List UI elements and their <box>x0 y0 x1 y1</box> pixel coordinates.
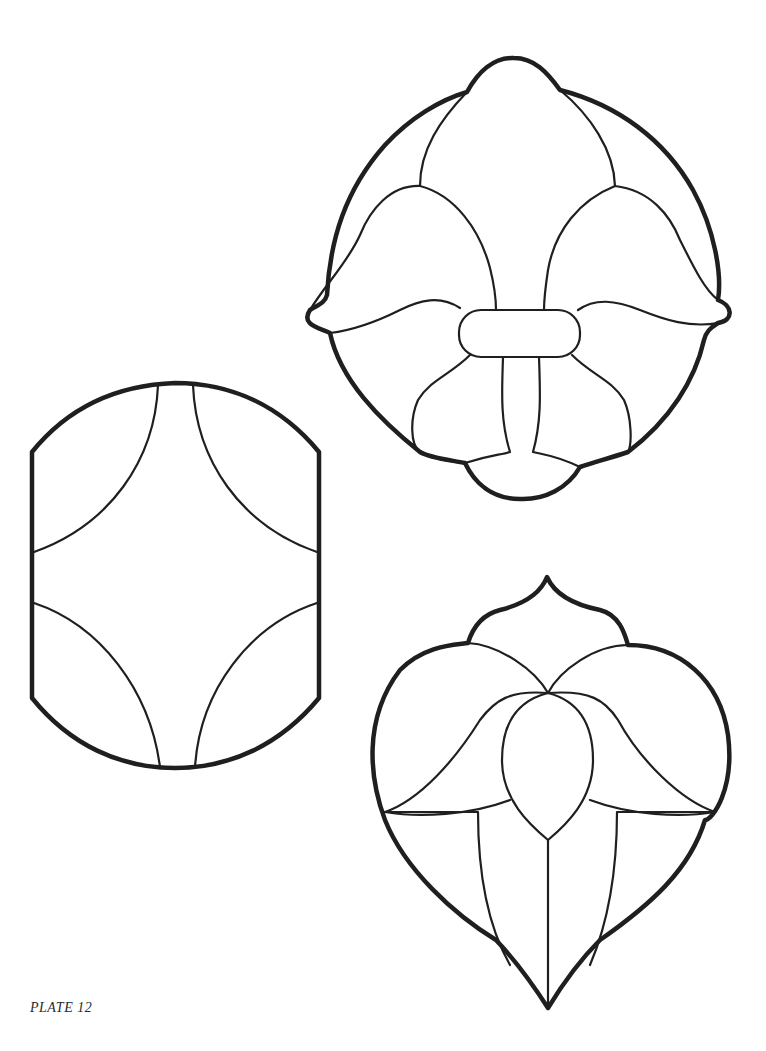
barrel-arc-top-right <box>193 385 317 552</box>
heart-lotus <box>373 577 730 1008</box>
fleur-top-petal <box>420 90 615 186</box>
barrel-outline <box>32 383 319 768</box>
fleur-central-band <box>459 310 580 357</box>
stained-glass-patterns <box>0 0 766 1051</box>
fleur-left-petal <box>310 186 496 333</box>
lotus-lower-leaves <box>385 812 715 1005</box>
rounded-rectangle-quatrefoil <box>32 383 319 768</box>
plate-page: PLATE 12 <box>0 0 766 1051</box>
medallion-outline <box>307 58 729 499</box>
lotus-center-teardrop <box>502 693 593 840</box>
fleur-right-petal <box>544 186 718 325</box>
lotus-side-petals <box>385 692 715 814</box>
fleur-lower-lobes <box>412 355 630 467</box>
barrel-arc-top-left <box>34 385 158 552</box>
heart-outline <box>373 577 730 1008</box>
barrel-arc-bottom-left <box>34 603 160 767</box>
fleur-de-lis-medallion <box>307 58 729 499</box>
plate-label: PLATE 12 <box>30 1000 92 1016</box>
lotus-upper-petals <box>468 643 628 693</box>
barrel-arc-bottom-right <box>195 603 317 767</box>
